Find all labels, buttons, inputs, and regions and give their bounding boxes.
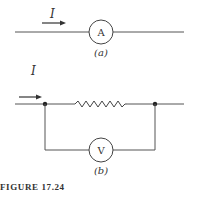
resistor-icon [75,101,127,107]
panel-b: I V (b) [15,64,184,176]
panel-a-label: (a) [94,47,108,58]
current-label-b: I [30,64,36,78]
panel-b-label: (b) [94,165,108,176]
voltmeter-label: V [96,145,105,156]
current-label-a: I [49,7,55,21]
current-arrow-b-icon [19,95,42,100]
current-arrow-a-icon [42,21,66,26]
circuit-figure: I A (a) I V (b) [0,0,199,197]
ammeter-label: A [96,27,105,38]
panel-a: I A (a) [15,7,184,58]
figure-caption: FIGURE 17.24 [0,182,65,192]
